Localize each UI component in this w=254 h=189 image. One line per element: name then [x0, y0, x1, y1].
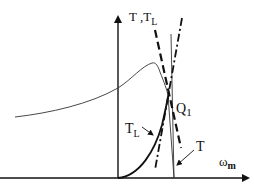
x-axis-label: ωm — [219, 154, 237, 171]
torque-speed-diagram: T ,TL Q1 TL T ωm — [0, 0, 254, 189]
motor-curve-label: T — [196, 139, 205, 154]
motor-curve-pointer-arrow — [177, 150, 194, 165]
load-curve-pointer-arrow — [142, 127, 153, 135]
motor-torque-curve — [15, 63, 174, 178]
y-axis-label: T ,TL — [129, 9, 157, 27]
operating-point-label: Q1 — [176, 101, 192, 118]
diagram-canvas: T ,TL Q1 TL T ωm — [0, 0, 254, 189]
dashed-tangent-line — [155, 30, 181, 148]
load-curve-label: TL — [125, 121, 140, 139]
